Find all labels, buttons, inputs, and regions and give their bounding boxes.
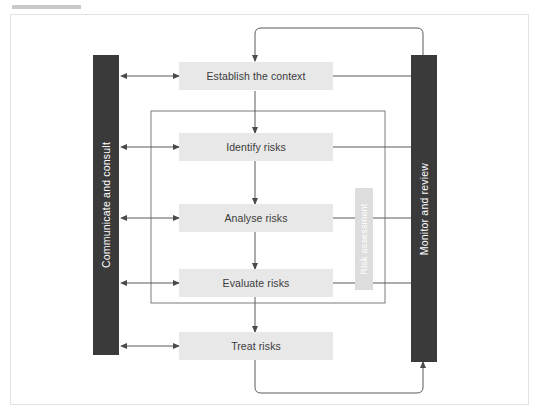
step-analyse-risks[interactable]: Analyse risks xyxy=(179,204,333,232)
redacted-caption-bar xyxy=(12,5,81,9)
figure-root: Communicate and consult Monitor and revi… xyxy=(0,0,539,419)
step-label: Establish the context xyxy=(207,70,306,82)
risk-assessment-group-label: Risk assessment xyxy=(355,188,373,290)
connector-bottom-feedback xyxy=(255,360,423,393)
step-establish-the-context[interactable]: Establish the context xyxy=(179,62,333,90)
step-treat-risks[interactable]: Treat risks xyxy=(179,332,333,360)
step-label: Evaluate risks xyxy=(223,277,290,289)
step-label: Treat risks xyxy=(231,340,281,352)
step-identify-risks[interactable]: Identify risks xyxy=(179,133,333,161)
side-bar-communicate-label: Communicate and consult xyxy=(100,142,112,268)
connector-top-feedback xyxy=(255,28,423,61)
side-bar-monitor-and-review: Monitor and review xyxy=(411,55,437,362)
figure-frame: Communicate and consult Monitor and revi… xyxy=(10,14,529,405)
step-label: Identify risks xyxy=(226,141,286,153)
step-evaluate-risks[interactable]: Evaluate risks xyxy=(179,269,333,297)
risk-assessment-label: Risk assessment xyxy=(359,203,369,274)
side-bar-monitor-label: Monitor and review xyxy=(418,162,430,254)
side-bar-communicate-and-consult: Communicate and consult xyxy=(93,55,119,355)
step-label: Analyse risks xyxy=(224,212,287,224)
